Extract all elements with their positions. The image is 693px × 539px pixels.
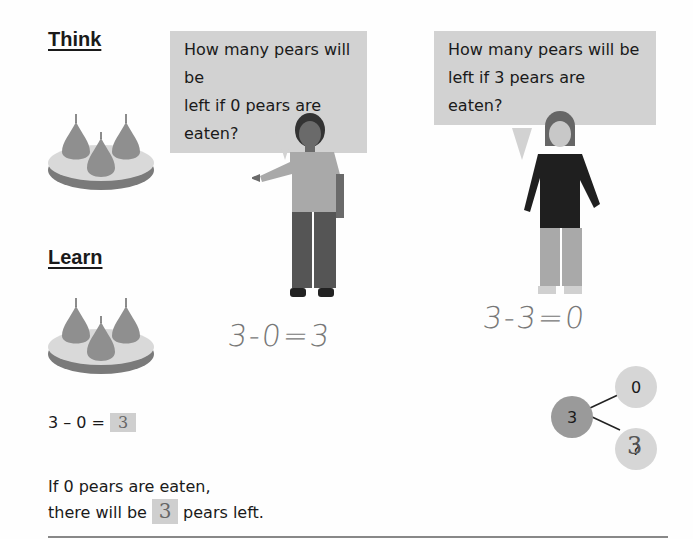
divider-line bbox=[48, 536, 668, 538]
learn-equation: 3 – 0 = 3 bbox=[48, 413, 136, 432]
sentence-line1: If 0 pears are eaten, bbox=[48, 474, 264, 499]
number-bond-whole: 3 bbox=[551, 396, 593, 438]
part-bottom-handwritten: 3 bbox=[627, 432, 642, 460]
bubble-right-line1: How many pears will be bbox=[448, 36, 642, 64]
sentence-answer-box[interactable]: 3 bbox=[152, 499, 178, 524]
learn-heading: Learn bbox=[48, 246, 102, 269]
equation-answer-box[interactable]: 3 bbox=[110, 413, 136, 432]
child-illustration-left bbox=[252, 108, 352, 300]
bubble-left-line1: How many pears will be bbox=[184, 36, 353, 92]
number-bond-part-bottom[interactable]: ? 3 bbox=[615, 428, 657, 470]
adult-illustration-right bbox=[518, 108, 613, 300]
equation-prefix: 3 – 0 = bbox=[48, 413, 105, 432]
handwritten-equation-right: 3-3=0 bbox=[481, 300, 588, 335]
sentence-line2-suffix: pears left. bbox=[183, 503, 264, 522]
pear-plate-illustration-learn bbox=[46, 292, 156, 378]
learn-sentence: If 0 pears are eaten, there will be 3 pe… bbox=[48, 474, 264, 525]
pear-plate-illustration-think bbox=[46, 108, 156, 194]
handwritten-equation-left: 3-0=3 bbox=[226, 318, 333, 353]
think-heading: Think bbox=[48, 28, 101, 51]
sentence-line2-prefix: there will be bbox=[48, 503, 147, 522]
number-bond-part-top: 0 bbox=[615, 366, 657, 408]
